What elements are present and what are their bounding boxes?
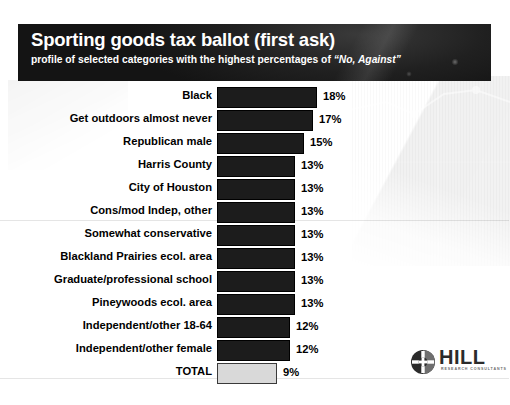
chart-row: Cons/mod Indep, other13% [0,201,509,224]
bar [217,294,295,315]
category-label: TOTAL [0,365,212,377]
bar [217,271,295,292]
value-label: 13% [301,251,323,263]
category-label: Republican male [0,135,212,147]
page-subtitle: profile of selected categories with the … [31,54,401,65]
value-label: 13% [301,159,323,171]
chart-row: Graduate/professional school13% [0,270,509,293]
value-label: 15% [310,136,332,148]
bar-track [217,340,290,361]
hill-research-consultants-logo: HILL RESEARCH CONSULTANTS [410,347,494,377]
bar [217,202,295,223]
category-label: Pineywoods ecol. area [0,296,212,308]
logo-tagline: RESEARCH CONSULTANTS [441,367,507,371]
bar-track [217,133,304,154]
bar-track [217,87,317,108]
chart-row: Independent/other 18-6412% [0,316,509,339]
subtitle-quote: “No, Against” [334,54,401,65]
category-label: Independent/other female [0,342,212,354]
bar-track [217,202,295,223]
value-label: 13% [301,297,323,309]
bar-track [217,110,313,131]
category-label: Cons/mod Indep, other [0,204,212,216]
hill-circle-logo-icon [410,349,436,375]
chart-row: City of Houston13% [0,178,509,201]
value-label: 12% [296,320,318,332]
bar-track [217,225,295,246]
chart-row: Pineywoods ecol. area13% [0,293,509,316]
category-label: Get outdoors almost never [0,112,212,124]
value-label: 13% [301,182,323,194]
category-label: Independent/other 18-64 [0,319,212,331]
chart-row: Republican male15% [0,132,509,155]
category-label: Graduate/professional school [0,273,212,285]
chart-row: Get outdoors almost never17% [0,109,509,132]
bar [217,248,295,269]
bar-track [217,317,290,338]
bar [217,179,295,200]
value-label: 9% [283,366,299,378]
chart-row: Blackland Prairies ecol. area13% [0,247,509,270]
bar [217,363,277,384]
category-label: Harris County [0,158,212,170]
bar-track [217,156,295,177]
category-label: Somewhat conservative [0,227,212,239]
value-label: 12% [296,343,318,355]
chart-row: Somewhat conservative13% [0,224,509,247]
bar [217,87,317,108]
bar-track [217,271,295,292]
logo-wordmark: HILL [439,347,485,368]
bar [217,317,290,338]
chart-row: Harris County13% [0,155,509,178]
category-label: Black [0,89,212,101]
subtitle-prefix: profile of selected categories with the … [31,54,334,65]
bar [217,110,313,131]
bar [217,133,304,154]
horizontal-bar-chart: Black18%Get outdoors almost never17%Repu… [0,86,509,385]
value-label: 13% [301,205,323,217]
bar [217,225,295,246]
header-band: Sporting goods tax ballot (first ask) pr… [18,24,491,81]
value-label: 13% [301,228,323,240]
category-label: City of Houston [0,181,212,193]
value-label: 13% [301,274,323,286]
value-label: 17% [319,113,341,125]
bar-track [217,294,295,315]
bar [217,156,295,177]
chart-row: Black18% [0,86,509,109]
bar-track [217,363,277,384]
bar-track [217,248,295,269]
value-label: 18% [323,90,345,102]
page-title: Sporting goods tax ballot (first ask) [31,29,335,51]
bar-track [217,179,295,200]
bar [217,340,290,361]
category-label: Blackland Prairies ecol. area [0,250,212,262]
